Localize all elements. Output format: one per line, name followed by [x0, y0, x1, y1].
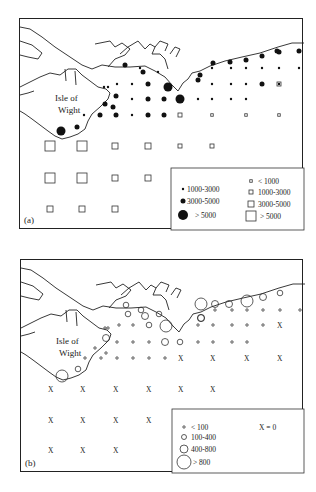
station-open-square [145, 143, 151, 149]
island-label: Isle of [55, 93, 78, 103]
station-filled-circle [244, 58, 249, 63]
station-open-circle [198, 315, 205, 322]
station-filled-circle [57, 127, 66, 136]
station-cross: X [178, 385, 184, 394]
station-filled-circle [98, 113, 103, 118]
map-a-canvas: Isle ofWight(a)1000-30003000-5000> 5000<… [20, 19, 304, 230]
island-label: Isle of [56, 336, 79, 346]
mainland-coastline [121, 282, 169, 310]
station-cross: X [48, 385, 54, 394]
station-open-square [112, 206, 118, 212]
station-filled-circle [162, 97, 167, 102]
legend-cross-label: X = 0 [259, 423, 276, 432]
station-filled-circle [278, 67, 280, 69]
station-filled-circle [114, 113, 119, 118]
station-filled-circle [245, 98, 247, 100]
station-open-circle [132, 324, 134, 326]
station-open-square [77, 173, 87, 183]
station-filled-circle [131, 114, 133, 116]
station-open-circle [146, 322, 152, 328]
mainland-coastline [171, 288, 181, 298]
station-filled-circle [131, 83, 133, 85]
panel-label: (b) [25, 458, 36, 468]
station-open-circle [148, 357, 150, 359]
station-filled-circle [260, 82, 265, 87]
station-filled-circle [211, 98, 213, 100]
station-cross: X [80, 446, 86, 455]
station-open-square [278, 114, 281, 117]
station-open-circle [100, 357, 102, 359]
station-open-circle [132, 357, 134, 359]
station-open-circle [262, 324, 264, 326]
station-cross: X [244, 354, 250, 363]
station-open-circle [125, 311, 131, 317]
station-open-circle [160, 320, 172, 332]
station-open-square [145, 175, 151, 181]
station-open-circle [212, 301, 219, 308]
station-cross: X [210, 354, 216, 363]
mainland-coastline [21, 332, 35, 336]
station-open-circle [116, 357, 118, 359]
mainland-coastline [75, 71, 76, 85]
station-open-circle [116, 341, 118, 343]
map-b-canvas: Isle ofWightXXXXXXXXXXXXXXXXXX(b)< 10010… [21, 260, 304, 473]
station-open-square [77, 141, 87, 151]
station-open-circle [162, 339, 169, 346]
station-filled-circle [245, 83, 247, 85]
station-open-circle [231, 309, 233, 311]
station-filled-circle [298, 67, 300, 69]
station-filled-circle [111, 105, 116, 110]
station-open-circle [260, 294, 267, 301]
station-open-circle [246, 309, 248, 311]
station-open-circle [231, 324, 233, 326]
station-open-circle [104, 327, 106, 329]
station-filled-circle [230, 83, 232, 85]
station-cross: X [113, 416, 119, 425]
station-filled-circle [197, 98, 199, 100]
station-cross: X [146, 385, 152, 394]
station-open-circle [94, 347, 96, 349]
station-open-square [45, 173, 55, 183]
station-filled-circle [228, 60, 233, 65]
mainland-coastline [156, 282, 169, 292]
station-open-circle [299, 309, 301, 311]
station-open-circle [214, 309, 216, 311]
legend-filled-circle [181, 199, 186, 204]
legend-label: 1000-3000 [187, 185, 220, 194]
station-open-square [112, 143, 118, 149]
legend-label: > 800 [193, 458, 211, 467]
station-cross: X [277, 354, 283, 363]
legend-label: > 5000 [260, 212, 281, 221]
station-filled-circle [198, 73, 203, 78]
station-filled-circle [261, 67, 263, 69]
station-filled-circle [146, 82, 151, 87]
station-filled-circle [141, 70, 146, 75]
station-filled-circle [278, 83, 280, 85]
mainland-coastline [76, 312, 77, 326]
legend-filled-circle [182, 188, 184, 190]
station-open-circle [262, 309, 264, 311]
panel-label: (a) [24, 215, 34, 225]
station-filled-circle [83, 114, 85, 116]
station-open-circle [212, 341, 214, 343]
station-open-circle [197, 341, 199, 343]
station-filled-circle [114, 94, 119, 99]
mainland-coastline [20, 27, 304, 91]
station-open-circle [164, 357, 166, 359]
legend-filled-circle [178, 210, 188, 220]
station-cross: X [277, 321, 283, 330]
station-filled-circle [211, 83, 213, 85]
station-open-square [178, 144, 182, 148]
station-filled-circle [260, 54, 265, 59]
station-open-square [245, 114, 248, 117]
station-open-circle [148, 341, 150, 343]
station-open-circle [246, 324, 248, 326]
station-open-circle [197, 324, 199, 326]
station-open-square [112, 175, 118, 181]
station-cross: X [48, 446, 54, 455]
mainland-coastline [20, 91, 34, 95]
station-filled-circle [123, 63, 128, 68]
station-filled-circle [75, 125, 80, 130]
station-open-circle [84, 357, 86, 359]
station-filled-circle [146, 97, 151, 102]
